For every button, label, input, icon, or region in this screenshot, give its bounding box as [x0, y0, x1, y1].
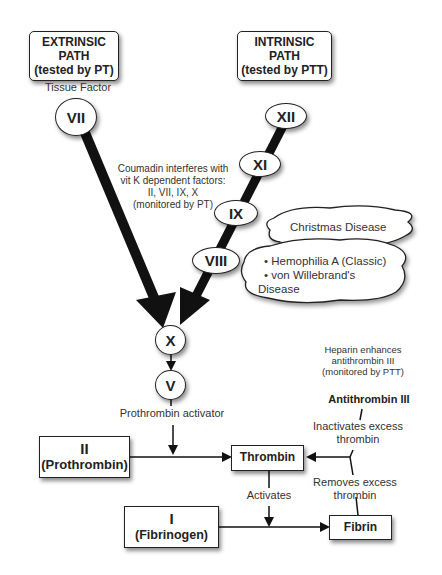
- prothrombin-numeral: II: [40, 441, 129, 457]
- coumadin-line1: Coumadin interferes with: [108, 163, 238, 175]
- extrinsic-title-line2: PATH: [30, 49, 118, 63]
- coumadin-line4: (monitored by PT): [108, 199, 238, 211]
- inactivates-line2: thrombin: [308, 433, 408, 446]
- heparin-line1: Heparin enhances: [308, 344, 418, 355]
- factor-v-node: V: [155, 370, 186, 400]
- coumadin-note: Coumadin interferes with vit K dependent…: [108, 163, 238, 211]
- intrinsic-title-line2: PATH: [238, 49, 331, 63]
- extrinsic-path-box: EXTRINSIC PATH (tested by PT): [29, 31, 119, 81]
- activates-label: Activates: [240, 489, 298, 501]
- fibrinogen-name: (Fibrinogen): [125, 527, 218, 543]
- removes-line2: thrombin: [305, 489, 405, 502]
- extrinsic-thick-arrow: [83, 128, 176, 328]
- heparin-line3: (monitored by PTT): [308, 366, 418, 377]
- tissue-factor-label: Tissue Factor: [43, 81, 113, 93]
- intrinsic-path-box: INTRINSIC PATH (tested by PTT): [237, 31, 332, 81]
- fibrin-label: Fibrin: [344, 520, 377, 534]
- antithrombin-title: Antithrombin III: [324, 393, 414, 405]
- fibrin-box: Fibrin: [329, 515, 392, 540]
- extrinsic-title-line1: EXTRINSIC: [30, 35, 118, 49]
- hemophilia-line1: • Hemophilia A (Classic): [264, 254, 386, 268]
- coumadin-line3: II, VII, IX, X: [108, 187, 238, 199]
- factor-viii-node: VIII: [192, 247, 240, 274]
- inactivates-line1: Inactivates excess: [308, 420, 408, 433]
- thrombin-box: Thrombin: [231, 445, 304, 471]
- hemophilia-line3: Disease: [258, 282, 386, 296]
- prothrombin-activator-label: Prothrombin activator: [116, 407, 228, 419]
- fibrinogen-numeral: I: [125, 511, 218, 527]
- factor-x-node: X: [155, 325, 186, 355]
- intrinsic-title-line3: (tested by PTT): [238, 63, 331, 77]
- heparin-note: Heparin enhances antithrombin III (monit…: [308, 344, 418, 377]
- factor-xi-node: XI: [239, 151, 281, 177]
- thrombin-label: Thrombin: [240, 450, 295, 464]
- factor-xii-node: XII: [265, 103, 307, 129]
- coumadin-line2: vit K dependent factors:: [108, 175, 238, 187]
- removes-line1: Removes excess: [305, 476, 405, 489]
- extrinsic-title-line3: (tested by PT): [30, 63, 118, 77]
- factor-vii-node: VII: [55, 98, 97, 136]
- heparin-line2: antithrombin III: [308, 355, 418, 366]
- fibrinogen-box: I (Fibrinogen): [124, 506, 219, 548]
- removes-note: Removes excess thrombin: [305, 476, 405, 502]
- intrinsic-title-line1: INTRINSIC: [238, 35, 331, 49]
- hemophilia-text: • Hemophilia A (Classic) • von Willebran…: [264, 254, 386, 296]
- hemophilia-line2: • von Willebrand's: [264, 268, 386, 282]
- prothrombin-name: (Prothrombin): [40, 457, 129, 473]
- prothrombin-box: II (Prothrombin): [39, 436, 130, 478]
- inactivates-note: Inactivates excess thrombin: [308, 420, 408, 446]
- christmas-disease-label: Christmas Disease: [290, 220, 387, 234]
